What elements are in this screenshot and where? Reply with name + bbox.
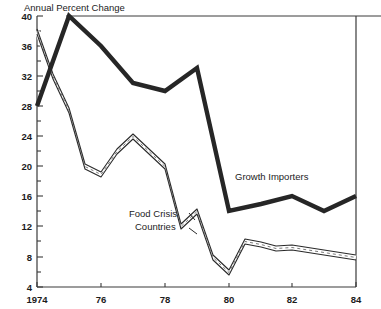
y-tick-label-4: 4 [27,282,33,293]
x-tick-label-78: 78 [160,294,171,305]
leader-food-crisis-lower [189,228,197,234]
y-tick-label-28: 28 [21,101,32,112]
x-tick-label-84: 84 [351,294,362,305]
x-axis-ticks [37,282,356,287]
x-tick-label-80: 80 [224,294,235,305]
annotation-food-crisis-line2: Countries [135,221,176,232]
y-tick-label-32: 32 [21,71,32,82]
y-axis-ticks [37,16,43,287]
x-tick-label-76: 76 [96,294,107,305]
line-chart: 40 36 32 28 24 20 16 12 8 4 1974 76 78 8… [0,0,381,309]
y-tick-label-16: 16 [21,191,32,202]
annotation-food-crisis-line1: Food Crisis [129,208,177,219]
y-tick-label-24: 24 [21,131,32,142]
y-tick-label-8: 8 [27,252,32,263]
x-tick-label-1974: 1974 [26,294,48,305]
y-tick-label-12: 12 [21,221,32,232]
chart-container: 40 36 32 28 24 20 16 12 8 4 1974 76 78 8… [0,0,381,309]
x-tick-label-82: 82 [287,294,298,305]
annotation-growth-importers: Growth Importers [235,171,309,182]
y-tick-label-36: 36 [21,41,32,52]
y-tick-label-20: 20 [21,161,32,172]
chart-title: Annual Percent Change [24,2,125,13]
